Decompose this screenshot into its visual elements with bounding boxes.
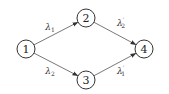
svg-text:4: 4 <box>141 43 148 56</box>
edge-label-lambda-2: λ2 <box>44 66 55 77</box>
svg-text:3: 3 <box>83 74 90 87</box>
edge-1-to-2: λ1 <box>34 22 78 45</box>
svg-text:2: 2 <box>83 12 90 25</box>
edge-3-to-4: λ′1 <box>94 53 136 77</box>
node-2: 2 <box>77 9 95 27</box>
node-3: 3 <box>77 71 95 89</box>
network-diagram: λ1 λ2 λ′2 λ′1 1 2 3 4 <box>0 0 169 94</box>
node-1: 1 <box>17 40 35 58</box>
edge-2-to-4: λ′2 <box>94 16 136 45</box>
svg-text:1: 1 <box>23 43 30 56</box>
diagram-svg: λ1 λ2 λ′2 λ′1 1 2 3 4 <box>0 0 169 94</box>
node-4: 4 <box>135 40 153 58</box>
edge-1-to-3: λ2 <box>34 53 78 77</box>
edge-label-lambda-1: λ1 <box>44 22 55 33</box>
edge-label-lambda-2-prime: λ′2 <box>116 16 125 29</box>
edge-label-lambda-1-prime: λ′1 <box>116 64 125 77</box>
